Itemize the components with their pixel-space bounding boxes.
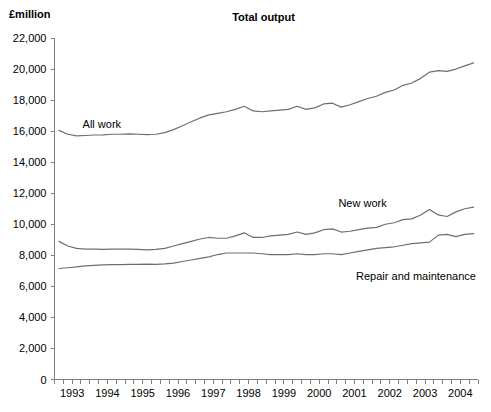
y-axis-tick-label: 16,000: [13, 125, 47, 137]
x-axis-ticks: 1993199419951996199719981999200020012002…: [55, 380, 479, 399]
chart-container: £million Total output 02,0004,0006,0008,…: [0, 0, 491, 412]
x-axis-tick-label: 1997: [201, 387, 225, 399]
line-chart-plot: 02,0004,0006,0008,00010,00012,00014,0001…: [0, 0, 491, 412]
x-axis-tick-label: 1993: [60, 387, 84, 399]
y-axis-tick-label: 2,000: [19, 342, 47, 354]
series-label-all-work: All work: [83, 118, 122, 130]
y-axis-group: 02,0004,0006,0008,00010,00012,00014,0001…: [13, 32, 55, 386]
x-axis-tick-label: 1994: [95, 387, 119, 399]
x-axis-tick-label: 1995: [130, 387, 154, 399]
y-axis-tick-label: 4,000: [19, 311, 47, 323]
data-series-group: [59, 63, 474, 269]
x-axis-tick-label: 1998: [236, 387, 260, 399]
y-axis-tick-label: 22,000: [13, 32, 47, 44]
y-axis-tick-label: 0: [40, 374, 46, 386]
x-axis-group: 1993199419951996199719981999200020012002…: [55, 380, 479, 399]
y-axis-tick-label: 18,000: [13, 94, 47, 106]
series-label-repair-and-maintenance: Repair and maintenance: [356, 270, 476, 282]
y-axis-tick-label: 12,000: [13, 187, 47, 199]
y-axis-tick-label: 10,000: [13, 218, 47, 230]
x-axis-tick-label: 1996: [166, 387, 190, 399]
x-axis-tick-label: 2002: [378, 387, 402, 399]
x-axis-tick-label: 2003: [413, 387, 437, 399]
y-axis-tick-label: 8,000: [19, 249, 47, 261]
y-axis-tick-label: 14,000: [13, 156, 47, 168]
series-line-repair-and-maintenance: [59, 234, 474, 269]
y-axis-tick-label: 6,000: [19, 280, 47, 292]
x-axis-tick-label: 2000: [307, 387, 331, 399]
x-axis-tick-label: 2001: [342, 387, 366, 399]
series-annotations-group: All workNew workRepair and maintenance: [83, 118, 476, 282]
x-axis-tick-label: 2004: [448, 387, 472, 399]
series-label-new-work: New work: [338, 197, 387, 209]
y-axis-ticks: 02,0004,0006,0008,00010,00012,00014,0001…: [13, 32, 55, 386]
x-axis-tick-label: 1999: [272, 387, 296, 399]
series-line-all-work: [59, 63, 474, 136]
y-axis-tick-label: 20,000: [13, 63, 47, 75]
